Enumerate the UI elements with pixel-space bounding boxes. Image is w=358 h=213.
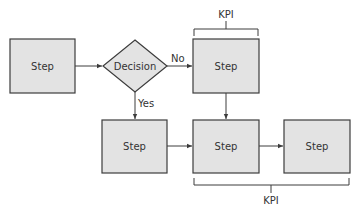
kpi-label-top: KPI (218, 9, 234, 20)
step-box-no-branch: Step (193, 39, 259, 93)
no-label: No (171, 53, 185, 64)
flowchart: Step Decision No Yes KPI Step Step Step … (0, 0, 358, 213)
step-label: Step (31, 61, 54, 72)
step-label: Step (123, 141, 146, 152)
step-label: Step (215, 61, 238, 72)
decision-diamond: Decision (103, 40, 167, 92)
step-label: Step (215, 141, 238, 152)
kpi-bracket-top (194, 21, 258, 36)
kpi-bracket-bottom (194, 178, 349, 193)
yes-label: Yes (137, 98, 154, 109)
kpi-label-bottom: KPI (263, 195, 279, 206)
step-box-final: Step (284, 120, 350, 173)
step-label: Step (306, 141, 329, 152)
decision-label: Decision (114, 61, 157, 72)
step-box-merge: Step (193, 120, 259, 173)
step-box-start: Step (10, 39, 75, 93)
step-box-yes-branch: Step (102, 120, 167, 173)
